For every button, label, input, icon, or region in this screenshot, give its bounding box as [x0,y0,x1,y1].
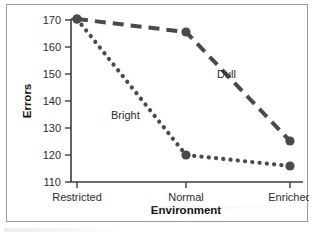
figure-frame: 110 120 130 140 150 160 170 Restricted [6,4,308,222]
scan-artifact-bottom [4,228,124,232]
series-dull: Dull [72,14,294,145]
y-tick-label-130: 130 [43,122,61,134]
scan-artifact-mid [150,206,300,209]
x-tick-label-restricted: Restricted [52,191,102,203]
y-tick-label-110: 110 [43,176,61,188]
x-tick-label-enriched: Enriched [268,191,309,203]
series-dull-point-enriched [285,136,294,145]
y-tick-label-120: 120 [43,149,61,161]
series-bright-point-normal [181,150,190,159]
series-bright: Bright [72,14,294,170]
series-bright-line [77,19,290,166]
series-bright-point-enriched [285,161,294,170]
y-tick-label-150: 150 [43,68,61,80]
y-axis-title: Errors [21,84,33,119]
x-ticks: Restricted Normal Enriched [52,182,309,203]
series-dull-line [77,19,290,141]
chart-svg: 110 120 130 140 150 160 170 Restricted [7,5,309,223]
x-tick-label-normal: Normal [168,191,203,203]
y-tick-label-140: 140 [43,95,61,107]
y-ticks: 110 120 130 140 150 160 170 [43,14,71,188]
y-tick-label-160: 160 [43,41,61,53]
series-bright-point-restricted [72,14,81,23]
series-dull-label: Dull [217,68,236,80]
y-tick-label-170: 170 [43,14,61,26]
series-dull-point-normal [181,27,190,36]
line-chart: 110 120 130 140 150 160 170 Restricted [7,5,309,223]
series-bright-label: Bright [111,109,140,121]
